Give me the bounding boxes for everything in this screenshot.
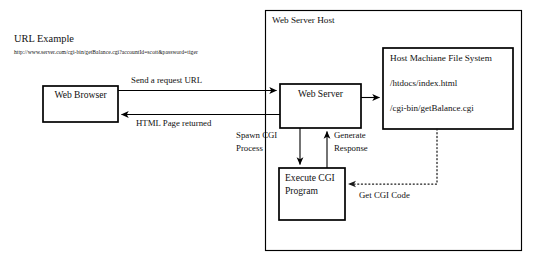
- edge-label-html-page-returned: HTML Page returned: [136, 119, 211, 129]
- diagram-canvas: URL Example http://www.server.com/cgi-bi…: [0, 0, 539, 267]
- edge-label-get-cgi-code: Get CGI Code: [359, 191, 410, 201]
- url-example-value: http://www.server.com/cgi-bin/getBalance…: [14, 49, 198, 55]
- web-server-node-label: Web Server: [280, 89, 361, 100]
- url-example-heading: URL Example: [14, 33, 74, 45]
- edge-label-spawn-cgi-process-line2: Process: [236, 144, 263, 154]
- edge-label-generate-response-line2: Response: [334, 144, 368, 154]
- edge-label-send-request-url: Send a request URL: [131, 76, 202, 86]
- file-system-entry-htdocs-index: /htdocs/index.html: [390, 78, 457, 88]
- web-browser-node-label: Web Browser: [43, 90, 118, 101]
- edge-label-generate-response-line1: Generate: [334, 131, 366, 141]
- edge-label-spawn-cgi-process-line1: Spawn CGI: [236, 131, 277, 141]
- execute-cgi-node-label-line2: Program: [285, 186, 318, 197]
- file-system-title: Host Machiane File System: [390, 53, 492, 63]
- web-server-host-container-outline: [266, 11, 522, 251]
- file-system-entry-cgi-bin-getbalance: /cgi-bin/getBalance.cgi: [390, 103, 474, 113]
- execute-cgi-node-label-line1: Execute CGI: [285, 173, 335, 184]
- web-server-host-title: Web Server Host: [272, 15, 335, 25]
